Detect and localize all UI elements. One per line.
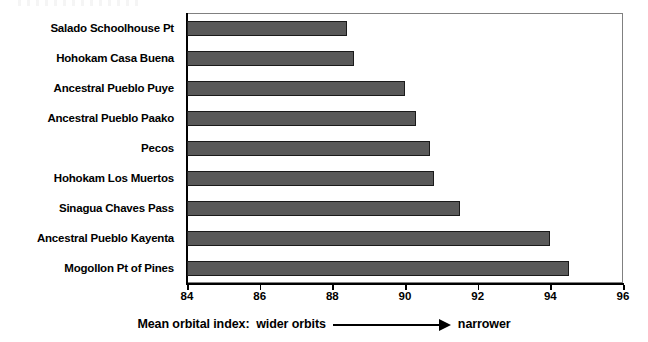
x-tick-label: 84 xyxy=(167,290,207,303)
x-tick-label: 94 xyxy=(530,290,570,303)
category-label: Ancestral Pueblo Puye xyxy=(0,82,174,94)
right-arrow-icon xyxy=(333,318,451,330)
x-tick-label: 90 xyxy=(385,290,425,303)
category-label: Salado Schoolhouse Pt xyxy=(0,22,174,34)
bar xyxy=(187,141,430,156)
bar xyxy=(187,81,405,96)
x-tick-label: 96 xyxy=(603,290,643,303)
category-label: Hohokam Los Muertos xyxy=(0,172,174,184)
bar-chart: Salado Schoolhouse PtHohokam Casa BuenaA… xyxy=(0,0,648,342)
x-tick-label: 88 xyxy=(312,290,352,303)
caption-prefix: Mean orbital index: wider orbits xyxy=(137,317,325,331)
category-label: Pecos xyxy=(0,142,174,154)
category-label: Sinagua Chaves Pass xyxy=(0,202,174,214)
bar xyxy=(187,51,354,66)
bar xyxy=(187,21,347,36)
bar xyxy=(187,231,550,246)
x-tick-label: 86 xyxy=(240,290,280,303)
category-label: Ancestral Pueblo Paako xyxy=(0,112,174,124)
caption-suffix: narrower xyxy=(458,317,511,331)
category-label: Mogollon Pt of Pines xyxy=(0,262,174,274)
category-label: Ancestral Pueblo Kayenta xyxy=(0,232,174,244)
bar xyxy=(187,261,569,276)
bar xyxy=(187,201,460,216)
scan-artifact xyxy=(18,0,138,6)
bar xyxy=(187,111,416,126)
x-axis-caption: Mean orbital index: wider orbits narrowe… xyxy=(0,312,648,336)
category-label: Hohokam Casa Buena xyxy=(0,52,174,64)
bar xyxy=(187,171,434,186)
x-tick-label: 92 xyxy=(458,290,498,303)
category-axis-labels: Salado Schoolhouse PtHohokam Casa BuenaA… xyxy=(0,13,180,283)
